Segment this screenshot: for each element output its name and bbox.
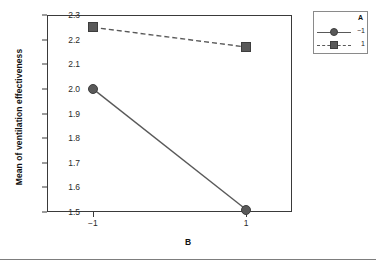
- y-tick-label: 1.9: [40, 109, 80, 119]
- circle-marker-icon: [330, 28, 338, 36]
- y-tick-label: 2.0: [40, 84, 80, 94]
- y-axis-title: Mean of ventilation effectiveness: [14, 22, 24, 212]
- interaction-plot-figure: Mean of ventilation effectiveness 2.32.2…: [0, 0, 376, 268]
- y-tick-label: 1.6: [40, 182, 80, 192]
- y-tick-label: 1.8: [40, 133, 80, 143]
- legend-box[interactable]: A −1 1: [313, 11, 368, 54]
- x-tick-label: −1: [73, 218, 113, 228]
- legend-title: A: [358, 14, 363, 21]
- footer-divider: [0, 259, 376, 260]
- x-axis-title: B: [0, 237, 376, 247]
- legend-item-plus1[interactable]: 1: [314, 39, 369, 52]
- legend-item-label: −1: [357, 27, 365, 34]
- y-tick-label: 2.1: [40, 59, 80, 69]
- legend-item-label: 1: [361, 40, 365, 47]
- x-tick-mark: [93, 212, 94, 217]
- y-tick-label: 1.7: [40, 158, 80, 168]
- x-tick-label: 1: [226, 218, 266, 228]
- y-tick-label: 2.2: [40, 35, 80, 45]
- square-marker-icon: [330, 41, 338, 49]
- x-tick-mark: [246, 212, 247, 217]
- y-tick-label: 1.5: [40, 207, 80, 217]
- plot-area: [47, 15, 292, 212]
- legend-item-minus1[interactable]: −1: [314, 26, 369, 39]
- y-tick-label: 2.3: [40, 10, 80, 20]
